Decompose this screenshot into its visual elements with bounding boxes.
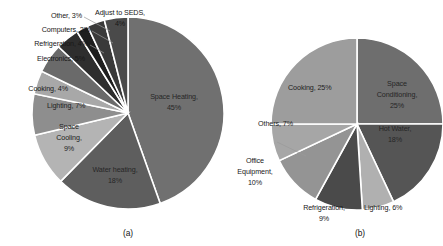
label-others-b: Others, 7% (258, 119, 293, 128)
label-refrigeration: Refrigeration, 4% (0, 39, 88, 48)
label-space-conditioning-line1: Space (364, 79, 430, 88)
pie-chart-panel-a: Space Heating, 45%Water heating, 18%Spac… (0, 0, 222, 246)
label-cooking: Cooking, 4% (0, 84, 68, 93)
label-refrigeration-b-line2: 9% (288, 214, 360, 223)
label-space-conditioning-line2: Conditioning, (364, 90, 430, 99)
label-space-conditioning-line3: 25% (364, 101, 430, 110)
label-office-equipment-line1: Office (224, 156, 286, 165)
label-electronics: Electronics, 5% (0, 54, 85, 63)
label-hot-water-line2: 18% (365, 135, 425, 144)
label-cooking-b: Cooking, 25% (288, 83, 332, 92)
label-water-heating-line2: 18% (80, 176, 150, 185)
label-space-cooling-line3: 9% (45, 144, 93, 153)
label-refrigeration-b-line1: Refrigeration, (288, 203, 360, 212)
label-other: Other, 3% (0, 11, 82, 20)
label-lighting: Lighting, 7% (47, 101, 85, 110)
label-water-heating-line1: Water heating, (80, 165, 150, 174)
label-adjust-to-seds-line1: Adjust to SEDS, (84, 8, 156, 17)
label-office-equipment-line3: 10% (224, 178, 286, 187)
label-lighting-b: Lighting, 6% (364, 203, 402, 212)
label-space-heating-line2: 45% (140, 103, 208, 112)
pie-a-leader-lines (0, 0, 222, 246)
label-hot-water-line1: Hot Water, (365, 124, 425, 133)
figure-two-pie-charts: Space Heating, 45%Water heating, 18%Spac… (0, 0, 443, 246)
label-office-equipment-line2: Equipment, (224, 167, 286, 176)
label-space-cooling-line2: Cooling, (45, 133, 93, 142)
label-computers: Computers, 2% (0, 25, 90, 34)
label-space-cooling-line1: Space (45, 122, 93, 131)
label-adjust-to-seds-line2: 4% (84, 19, 156, 28)
caption-b: (b) (340, 228, 380, 238)
caption-a: (a) (108, 228, 148, 238)
label-space-heating-line1: Space Heating, (140, 92, 208, 101)
pie-chart-panel-b: Space Conditioning, 25%Hot Water, 18%Lig… (222, 0, 443, 246)
